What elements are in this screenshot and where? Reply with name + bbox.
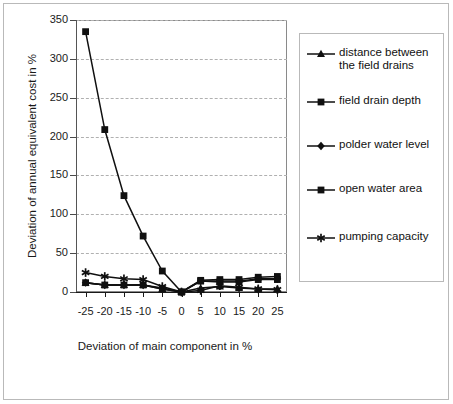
triangle-marker: [306, 47, 336, 61]
square-marker: [318, 99, 325, 106]
square-marker: [101, 126, 108, 133]
legend-label: distance between the field drains: [339, 46, 429, 72]
chart-legend: distance between the field drainsfield d…: [299, 33, 444, 282]
square-marker: [306, 183, 336, 197]
y-axis-title: Deviation of annual equivalent cost in %: [26, 31, 38, 281]
square-marker: [82, 279, 89, 286]
legend-item[interactable]: pumping capacity: [306, 230, 442, 245]
x-axis-title: Deviation of main component in %: [40, 340, 290, 352]
square-marker: [121, 192, 128, 199]
legend-item[interactable]: open water area: [306, 182, 442, 197]
square-marker: [140, 233, 147, 240]
square-marker: [197, 278, 204, 285]
data-series: [82, 268, 281, 296]
asterisk-marker: [306, 231, 336, 245]
square-marker: [82, 28, 89, 35]
legend-label: field drain depth: [339, 94, 421, 107]
series-line: [86, 32, 278, 292]
square-marker: [274, 276, 281, 283]
diamond-marker: [306, 139, 336, 153]
square-marker: [255, 276, 262, 283]
figure-page: 050100150200250300350 -25-20-15-10-50510…: [0, 0, 453, 404]
legend-label: pumping capacity: [339, 230, 429, 243]
square-marker: [159, 268, 166, 275]
diamond-marker: [317, 142, 325, 150]
square-marker: [101, 282, 108, 289]
data-series: [82, 28, 281, 295]
legend-item[interactable]: distance between the field drains: [306, 46, 442, 72]
legend-label: open water area: [339, 182, 422, 195]
legend-label: polder water level: [339, 138, 429, 151]
square-marker: [306, 95, 336, 109]
legend-item[interactable]: polder water level: [306, 138, 442, 153]
legend-item[interactable]: field drain depth: [306, 94, 442, 109]
square-marker: [318, 187, 325, 194]
